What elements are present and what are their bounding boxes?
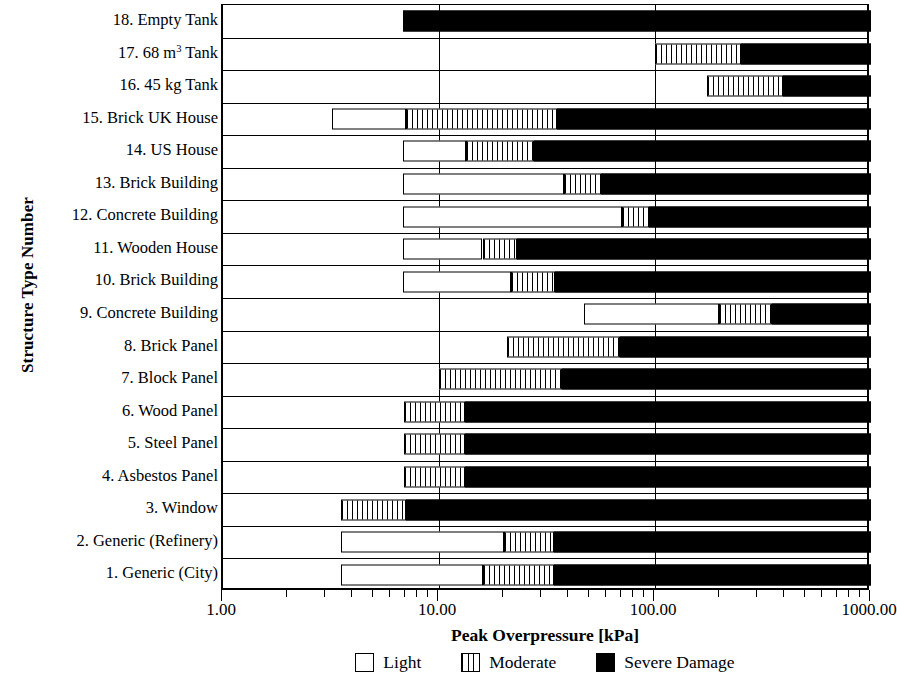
bar-row [223,298,867,331]
bar-segment-severe [601,174,871,195]
bar-row [223,200,867,233]
bar-segment-severe [783,76,871,97]
bar-segment-moderate [707,76,782,97]
x-tick-minor [783,590,784,597]
y-axis-label: 8. Brick Panel [124,330,218,363]
bar-segment-light [403,271,511,292]
x-tick-minor [804,590,805,597]
legend-item: Severe Damage [596,652,734,673]
bar-segment-moderate [483,239,518,260]
bar-row [223,461,867,494]
x-tick-minor [605,590,606,597]
x-tick-minor [848,590,849,597]
legend-label: Moderate [489,652,556,673]
bar-segment-moderate [622,206,650,227]
bar-segment-moderate [404,467,465,488]
bar-row [223,103,867,136]
bar-segment-moderate [483,564,554,585]
bar-segment-light [332,108,405,129]
legend-label: Severe Damage [624,652,734,673]
bar-segment-severe [554,532,871,553]
bar-segment-moderate [504,532,554,553]
plot-area [221,4,869,590]
bar-row [223,168,867,201]
x-tick-minor [859,590,860,597]
bar-segment-moderate [466,141,534,162]
x-tick-minor [286,590,287,597]
bar-segment-severe [772,304,871,325]
bar-segment-severe [465,467,871,488]
x-tick-minor [389,590,390,597]
x-tick-label: 1000.00 [841,600,896,620]
bar-segment-moderate [564,174,601,195]
y-axis-label: 3. Window [146,492,218,525]
x-tick-label: 1.00 [206,600,236,620]
x-tick-minor [643,590,644,597]
bar-segment-severe [649,206,871,227]
x-tick-minor [427,590,428,597]
bar-row [223,428,867,461]
x-tick-minor [588,590,589,597]
y-axis-label: 17. 68 m3 Tank [118,37,218,70]
bar-segment-severe [554,564,871,585]
x-tick-minor [632,590,633,597]
bar-segment-moderate [719,304,772,325]
bar-row [223,396,867,429]
x-tick-minor [416,590,417,597]
y-axis-label: 2. Generic (Refinery) [76,525,218,558]
x-tick-label: 10.00 [418,600,456,620]
hatched-square-swatch [461,653,480,672]
bar-row [223,331,867,364]
bar-row [223,363,867,396]
bar-segment-severe [406,499,871,520]
bar-segment-severe [555,271,871,292]
x-axis-title: Peak Overpressure [kPa] [221,625,869,646]
open-square-swatch [355,653,374,672]
bar-segment-moderate [404,434,465,455]
y-axis-label: 12. Concrete Building [72,199,218,232]
chart-legend: LightModerateSevere Damage [221,652,869,673]
bar-row [223,526,867,559]
bar-segment-light [403,206,622,227]
bar-row [223,70,867,103]
y-axis-label: 10. Brick Building [95,264,218,297]
y-axis-label: 9. Concrete Building [80,297,218,330]
bar-segment-moderate [655,43,741,64]
x-tick-minor [540,590,541,597]
bar-segment-severe [620,336,871,357]
bar-segment-moderate [511,271,555,292]
bar-segment-severe [465,434,871,455]
y-axis-label: 15. Brick UK House [82,102,218,135]
bar-segment-severe [557,108,871,129]
bar-segment-moderate [439,369,562,390]
x-tick-minor [372,590,373,597]
bar-segment-light [403,239,483,260]
y-axis-label: 7. Block Panel [121,362,218,395]
x-tick-minor [567,590,568,597]
bar-segment-light [403,141,466,162]
y-axis-label: 18. Empty Tank [113,4,218,37]
legend-item: Light [355,652,421,673]
bar-row [223,135,867,168]
x-tick-minor [836,590,837,597]
bar-segment-light [403,174,564,195]
x-tick-minor [718,590,719,597]
bar-row [223,233,867,266]
bar-row [223,493,867,526]
x-tick-minor [404,590,405,597]
y-axis-label: 4. Asbestos Panel [102,460,218,493]
bar-segment-moderate [341,499,406,520]
bar-row [223,5,867,38]
x-tick-label: 100.00 [630,600,677,620]
x-tick-minor [821,590,822,597]
bar-segment-severe [741,43,871,64]
y-axis-label: 13. Brick Building [95,167,218,200]
filled-square-swatch [596,653,615,672]
bar-segment-severe [465,401,871,422]
bar-segment-light [341,564,484,585]
bar-segment-moderate [404,401,465,422]
bar-row [223,265,867,298]
bar-row [223,38,867,71]
y-axis-label: 6. Wood Panel [122,395,218,428]
legend-label: Light [383,652,421,673]
